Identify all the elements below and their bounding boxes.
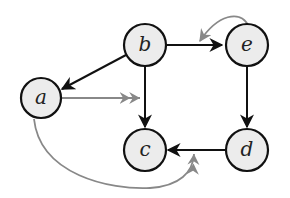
edge-b-a: [62, 55, 126, 89]
node-a: a: [21, 78, 61, 118]
node-c: c: [124, 129, 166, 171]
node-b-label: b: [139, 32, 152, 56]
node-c-label: c: [139, 137, 150, 161]
node-e: e: [226, 24, 268, 66]
node-e-label: e: [241, 32, 253, 56]
node-a-label: a: [35, 85, 47, 109]
node-d: d: [226, 129, 268, 171]
node-d-label: d: [241, 137, 254, 161]
node-b: b: [124, 24, 166, 66]
graph-diagram: a b c d e: [0, 0, 290, 198]
edge-a-to-dc: [34, 119, 194, 188]
